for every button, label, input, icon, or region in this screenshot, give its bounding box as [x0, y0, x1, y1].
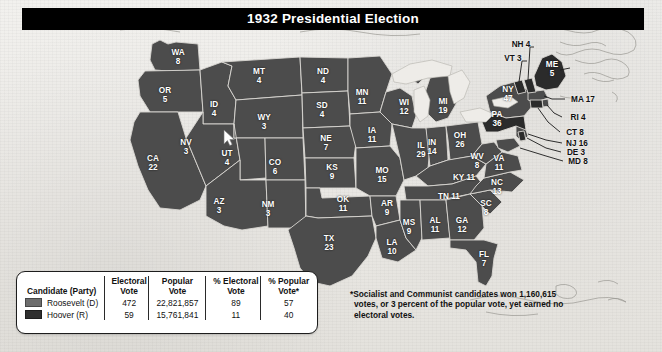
leader-NH	[528, 47, 534, 80]
cell-pct-popular: 40	[261, 308, 311, 320]
map-title-bar: 1932 Presidential Election	[22, 8, 644, 30]
cell-electoral-vote: 472	[104, 296, 149, 308]
table-row: Hoover (R)5915,761,8411140	[25, 308, 311, 320]
state-ME	[534, 54, 566, 90]
results-table: Candidate (Party) ElectoralVote PopularV…	[25, 276, 311, 320]
state-KS	[305, 158, 356, 188]
cell-popular-vote: 15,761,841	[149, 308, 206, 320]
candidate-name: Hoover (R)	[47, 310, 88, 320]
candidate-name: Roosevelt (D)	[47, 298, 98, 308]
cell-pct-popular: 57	[261, 296, 311, 308]
state-OR	[138, 70, 203, 112]
state-OK	[306, 188, 372, 218]
col-header-pct-electoral: % ElectoralVote	[206, 276, 261, 296]
election-results-legend: Candidate (Party) ElectoralVote PopularV…	[16, 271, 318, 334]
table-row: Roosevelt (D)47222,821,8578957	[25, 296, 311, 308]
col-header-candidate: Candidate (Party)	[25, 276, 104, 296]
footnote-text: *Socialist and Communist candidates won …	[350, 289, 565, 320]
leader-MD	[520, 148, 563, 161]
state-WY	[234, 95, 303, 138]
party-color-swatch	[25, 310, 42, 319]
state-IN	[426, 126, 448, 166]
cell-popular-vote: 22,821,857	[149, 296, 206, 308]
cell-candidate: Roosevelt (D)	[25, 296, 104, 308]
states-roosevelt	[130, 40, 549, 286]
table-header-row: Candidate (Party) ElectoralVote PopularV…	[25, 276, 311, 296]
party-color-swatch	[25, 298, 42, 307]
cell-electoral-vote: 59	[104, 308, 149, 320]
leader-RI	[547, 105, 562, 117]
state-CT	[530, 100, 543, 108]
col-header-popular-vote: PopularVote	[149, 276, 206, 296]
state-ND	[300, 57, 348, 93]
leader-DE	[527, 138, 561, 152]
election-map-figure: 1932 Presidential Election WA8OR5CA22ID4…	[0, 0, 662, 352]
state-SD	[302, 91, 350, 128]
state-MT	[222, 57, 302, 100]
cell-candidate: Hoover (R)	[25, 308, 104, 320]
leader-VT	[519, 61, 527, 82]
page-title: 1932 Presidential Election	[247, 12, 419, 26]
state-AL	[420, 200, 450, 240]
cell-pct-electoral: 11	[206, 308, 261, 320]
cell-pct-electoral: 89	[206, 296, 261, 308]
state-NE	[303, 126, 356, 158]
state-FL	[450, 240, 498, 286]
col-header-pct-popular: % PopularVote*	[261, 276, 311, 296]
state-WA	[150, 40, 200, 71]
leader-CT	[538, 108, 560, 132]
state-CO	[265, 138, 305, 180]
state-MO	[356, 146, 404, 196]
col-header-electoral-vote: ElectoralVote	[104, 276, 149, 296]
